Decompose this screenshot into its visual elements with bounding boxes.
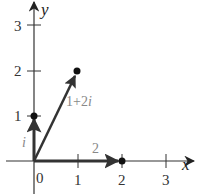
y-axis-label: y bbox=[39, 0, 49, 19]
x-axis-label: x bbox=[181, 155, 190, 174]
vector-1-plus-2i bbox=[34, 76, 75, 161]
origin-label: 0 bbox=[36, 170, 44, 186]
y-tick-label-2: 2 bbox=[14, 63, 22, 79]
point-i bbox=[31, 113, 38, 120]
vector-i-label: i bbox=[22, 135, 26, 150]
vector-2-label: 2 bbox=[92, 141, 99, 156]
x-tick-label-3: 3 bbox=[162, 172, 170, 188]
vector-1-plus-2i-label: 1+2i bbox=[66, 94, 92, 109]
point-2 bbox=[119, 158, 126, 165]
y-tick-label-3: 3 bbox=[14, 18, 22, 34]
point-1-plus-2i bbox=[74, 68, 81, 75]
x-tick-label-1: 1 bbox=[74, 172, 82, 188]
complex-plane-diagram: 0 1 2 3 1 2 3 x y i 2 1+2i bbox=[0, 0, 201, 195]
x-tick-label-2: 2 bbox=[118, 172, 126, 188]
y-tick-label-1: 1 bbox=[14, 108, 22, 124]
